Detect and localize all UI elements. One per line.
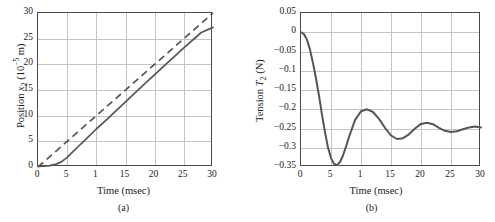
y-axis-title-prefix: Position (15, 91, 26, 128)
curve-tension-solid (301, 32, 481, 165)
panel-caption-a: (a) (0, 202, 247, 213)
data-curves-b (301, 13, 481, 167)
y-tick-label: 5 (14, 136, 33, 146)
y-tick-label: 0 (14, 161, 33, 171)
y-tick-label: 25 (14, 33, 33, 43)
x-tick-label: 0 (35, 170, 40, 180)
x-tick-label: 30 (475, 170, 485, 180)
y-axis-title-variable: x (15, 86, 26, 91)
panel-a: 0 5 10 15 20 25 30 0 5 1 15 20 25 30 Pos… (0, 0, 247, 222)
x-tick-label: 25 (178, 170, 188, 180)
plot-area-a (37, 12, 212, 166)
panel-b: 0.05 0 −0.05 −0.1 −0.15 −0.2 −0.25 −0.3 … (248, 0, 495, 222)
x-tick-label: 5 (64, 170, 69, 180)
y-tick-label: −0.05 (254, 46, 296, 56)
y-tick-label: −0.3 (254, 142, 296, 152)
x-tick-label: 5 (328, 170, 333, 180)
y-axis-title-subscript: 2 (20, 82, 29, 86)
y-axis-units-open: (10 (15, 66, 26, 83)
y-tick-label: 30 (14, 7, 33, 17)
curve-ideal-dashed (38, 13, 213, 167)
x-tick-label: 1 (93, 170, 98, 180)
y-axis-title-b: Tension T2 (N) (254, 59, 268, 122)
y-axis-title-a: Position x2 (10−5 m) (12, 44, 29, 128)
x-tick-label: 15 (385, 170, 395, 180)
data-curves-a (38, 13, 213, 167)
x-tick-label: 0 (298, 170, 303, 180)
y-tick-label: 0.05 (254, 7, 296, 17)
y-tick-label: 0 (254, 27, 296, 37)
y-tick-label: −0.25 (254, 123, 296, 133)
panel-caption-b: (b) (248, 202, 495, 213)
y-axis-units-exponent: −5 (12, 58, 21, 66)
x-tick-label: 15 (120, 170, 130, 180)
x-tick-label: 20 (149, 170, 159, 180)
curve-position-solid (38, 27, 213, 166)
x-tick-label: 20 (415, 170, 425, 180)
y-axis-units: (N) (254, 59, 265, 76)
y-axis-title-variable: T (254, 80, 265, 86)
y-axis-title-subscript: 2 (259, 76, 268, 80)
x-tick-label: 30 (207, 170, 217, 180)
y-axis-units-close: m) (15, 44, 26, 58)
x-tick-label: 1 (358, 170, 363, 180)
y-tick-label: −0.35 (254, 161, 296, 171)
y-axis-title-prefix: Tension (254, 86, 265, 122)
figure-container: 0 5 10 15 20 25 30 0 5 1 15 20 25 30 Pos… (0, 0, 495, 222)
x-axis-title-b: Time (msec) (268, 185, 484, 196)
plot-area-b (300, 12, 480, 166)
x-tick-label: 25 (445, 170, 455, 180)
x-axis-title-a: Time (msec) (0, 185, 247, 196)
